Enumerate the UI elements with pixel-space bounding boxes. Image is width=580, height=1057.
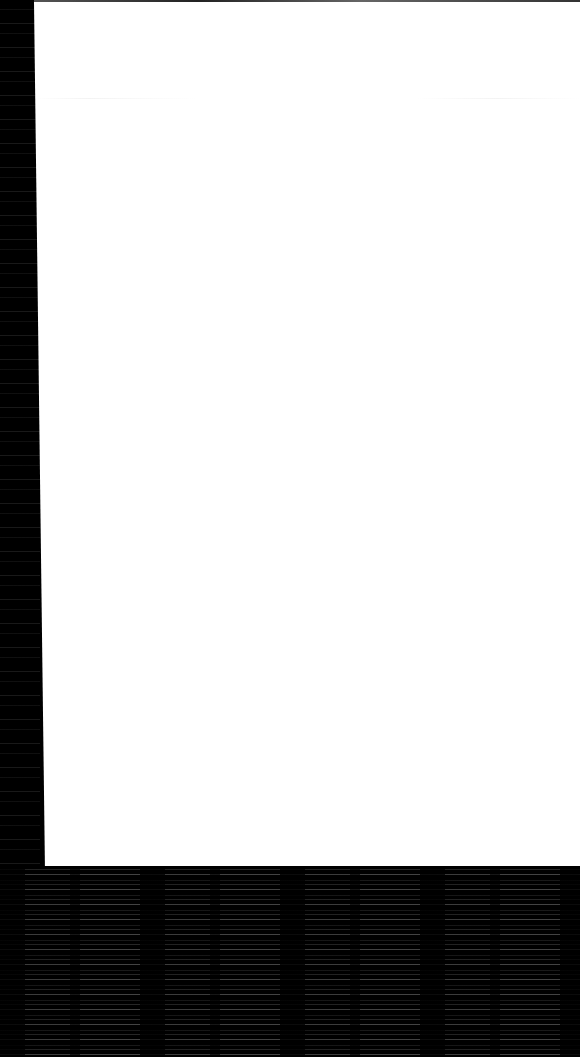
screen [0,0,580,1057]
top-frame-edge [34,0,580,2]
faint-divider [34,98,580,99]
left-frame-border [0,0,40,866]
bottom-frame-noise-overlay [0,866,580,1057]
blank-page[interactable] [34,2,580,866]
